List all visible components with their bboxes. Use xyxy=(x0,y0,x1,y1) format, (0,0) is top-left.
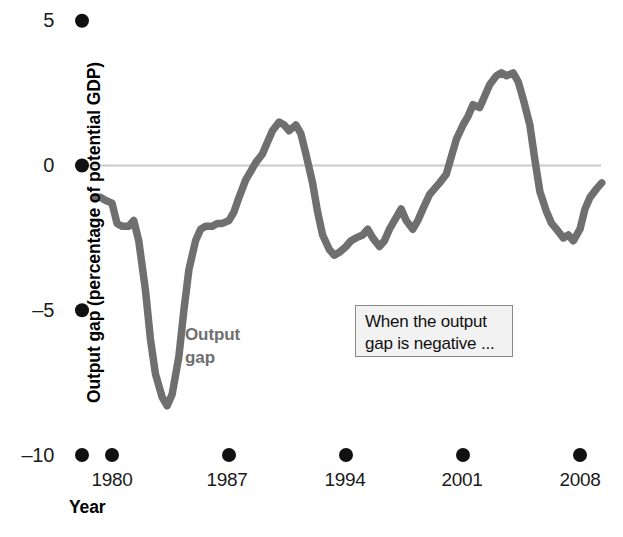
output-gap-line xyxy=(95,73,601,406)
x-tick-dot-1987 xyxy=(222,448,236,462)
series-label-output-gap: Output gap xyxy=(185,324,240,369)
x-tick-label-2008: 2008 xyxy=(530,469,623,491)
x-tick-dot-1980 xyxy=(105,448,119,462)
x-tick-dot-2008 xyxy=(573,448,587,462)
y-axis-title: Output gap (percentage of potential GDP) xyxy=(84,0,105,468)
y-tick-label-neg5: –5 xyxy=(10,299,54,322)
y-tick-label-5: 5 xyxy=(10,9,54,32)
output-gap-chart: Output gap (percentage of potential GDP)… xyxy=(0,0,623,537)
x-axis-tick-dots xyxy=(105,448,587,462)
annotation-callout: When the output gap is negative ... xyxy=(355,305,513,357)
y-tick-label-0: 0 xyxy=(10,154,54,177)
x-tick-label-1987: 1987 xyxy=(177,469,277,491)
x-tick-dot-1994 xyxy=(339,448,353,462)
y-tick-label-neg10: –10 xyxy=(0,444,54,467)
x-tick-dot-2001 xyxy=(456,448,470,462)
x-tick-label-1980: 1980 xyxy=(62,469,162,491)
x-tick-label-1994: 1994 xyxy=(295,469,395,491)
x-tick-label-2001: 2001 xyxy=(412,469,512,491)
x-axis-title: Year xyxy=(69,497,106,518)
